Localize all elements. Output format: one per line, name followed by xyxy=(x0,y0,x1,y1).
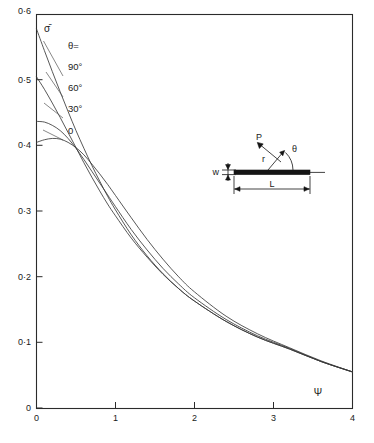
theta-label: θ xyxy=(292,144,297,154)
beam-loading-diagram: w L r P θ xyxy=(212,132,326,194)
theta-arc xyxy=(286,153,294,171)
y-tick-label-1: 0·1 xyxy=(18,337,31,347)
l-label: L xyxy=(269,179,274,189)
y-axis-tick-labels: 0 0·1 0·2 0·3 0·4 0·5 0·6 xyxy=(18,6,31,413)
y-tick-label-3: 0·3 xyxy=(18,206,31,216)
w-label: w xyxy=(212,167,220,177)
plot-frame xyxy=(37,15,353,409)
legend: θ= 90° 60° 30° 0 xyxy=(68,40,83,136)
series-line-90deg xyxy=(37,29,353,372)
beam-bar xyxy=(234,170,310,175)
x-axis-tick-labels: 0 1 2 3 4 xyxy=(34,413,355,423)
y-tick-label-0: 0 xyxy=(26,403,31,413)
legend-item-60: 60° xyxy=(68,82,83,93)
chart-svg: 0 0·1 0·2 0·3 0·4 0·5 0·6 0 1 2 3 4 σ̄ Ψ xyxy=(0,0,374,443)
y-axis-label: σ̄ xyxy=(44,23,52,34)
l-arrow-left xyxy=(235,187,240,192)
y-tick-label-4: 0·4 xyxy=(18,140,31,150)
w-arrow-down xyxy=(226,175,231,180)
y-tick-label-2: 0·2 xyxy=(18,272,31,282)
r-label: r xyxy=(262,154,265,164)
x-tick-label-1: 1 xyxy=(113,413,118,423)
legend-item-0: 0 xyxy=(68,125,73,136)
x-tick-label-2: 2 xyxy=(192,413,197,423)
x-tick-label-3: 3 xyxy=(271,413,276,423)
y-tick-label-6: 0·6 xyxy=(18,6,31,16)
legend-title: θ= xyxy=(68,40,79,51)
x-axis-ticks xyxy=(37,402,353,408)
y-axis-ticks xyxy=(37,15,43,409)
l-arrow-right xyxy=(304,187,309,192)
data-curves xyxy=(37,29,353,372)
y-tick-label-5: 0·5 xyxy=(18,75,31,85)
legend-item-90: 90° xyxy=(68,61,83,72)
p-arrowhead xyxy=(257,142,263,148)
series-line-60deg xyxy=(37,77,353,372)
p-label: P xyxy=(256,132,262,142)
legend-item-30: 30° xyxy=(68,103,83,114)
x-tick-label-0: 0 xyxy=(34,413,39,423)
figure-container: 0 0·1 0·2 0·3 0·4 0·5 0·6 0 1 2 3 4 σ̄ Ψ xyxy=(0,0,374,443)
series-line-30deg xyxy=(37,121,353,372)
x-axis-label: Ψ xyxy=(314,387,322,398)
w-arrow-up xyxy=(226,165,231,170)
x-tick-label-4: 4 xyxy=(350,413,355,423)
